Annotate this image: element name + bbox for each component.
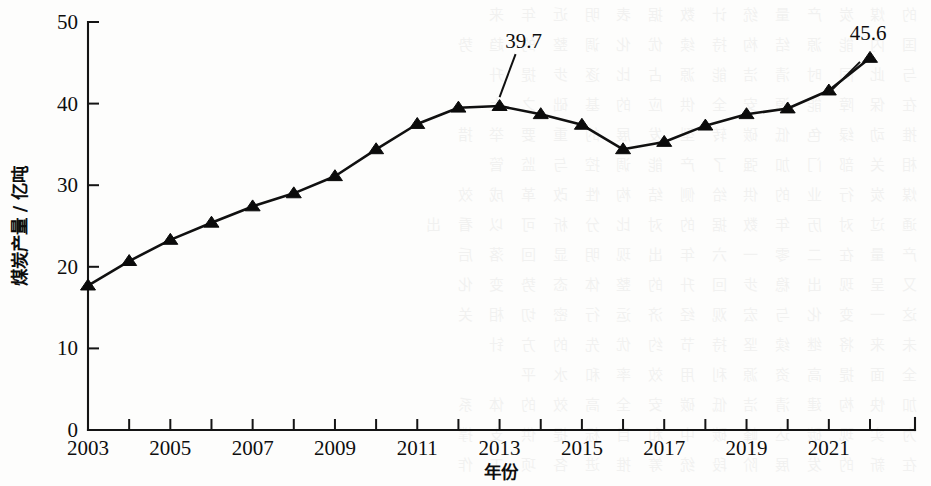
coal-production-series-line: [88, 58, 870, 286]
y-tick-label-10: 10: [57, 336, 78, 360]
annotation-39.7: 39.7: [500, 29, 542, 97]
x-axis-group: 2003200520072009201120132015201720192021: [67, 418, 915, 460]
data-marker-2022: [863, 51, 878, 62]
x-tick-label-2009: 2009: [314, 436, 356, 460]
y-tick-label-50: 50: [57, 10, 78, 34]
x-tick-label-2015: 2015: [561, 436, 603, 460]
data-marker-2003: [81, 279, 96, 290]
coal-production-data-markers: [81, 51, 878, 290]
data-marker-2004: [122, 255, 137, 266]
x-axis-ticks: [88, 419, 870, 430]
x-tick-label-2021: 2021: [808, 436, 850, 460]
x-tick-label-2019: 2019: [726, 436, 768, 460]
y-tick-label-20: 20: [57, 255, 78, 279]
annotation-label-39.7: 39.7: [505, 29, 542, 53]
coal-production-line-chart: 的 煤 炭 产 量 统 计 数 据 表 明 近 年 来国 内 能 源 结 构 持…: [0, 0, 931, 486]
y-tick-label-40: 40: [57, 92, 78, 116]
x-tick-label-2011: 2011: [397, 436, 438, 460]
x-tick-label-2013: 2013: [479, 436, 521, 460]
x-tick-label-2017: 2017: [643, 436, 685, 460]
y-axis-title: 煤炭产量 / 亿吨: [10, 165, 30, 287]
annotation-leader-45.6: [828, 62, 860, 94]
y-axis-tick-labels: 01020304050: [57, 10, 78, 442]
data-marker-2010: [369, 143, 384, 154]
x-axis-title: 年份: [484, 462, 519, 482]
x-tick-label-2005: 2005: [149, 436, 191, 460]
y-axis-ticks: [88, 22, 99, 430]
x-axis-tick-labels: 2003200520072009201120132015201720192021: [67, 436, 850, 460]
y-tick-label-30: 30: [57, 173, 78, 197]
chart-canvas: 01020304050 2003200520072009201120132015…: [0, 0, 931, 486]
x-tick-label-2007: 2007: [232, 436, 274, 460]
x-tick-label-2003: 2003: [67, 436, 109, 460]
annotation-label-45.6: 45.6: [850, 21, 887, 45]
y-axis-group: 01020304050: [57, 10, 99, 442]
annotation-leader-39.7: [500, 54, 516, 97]
